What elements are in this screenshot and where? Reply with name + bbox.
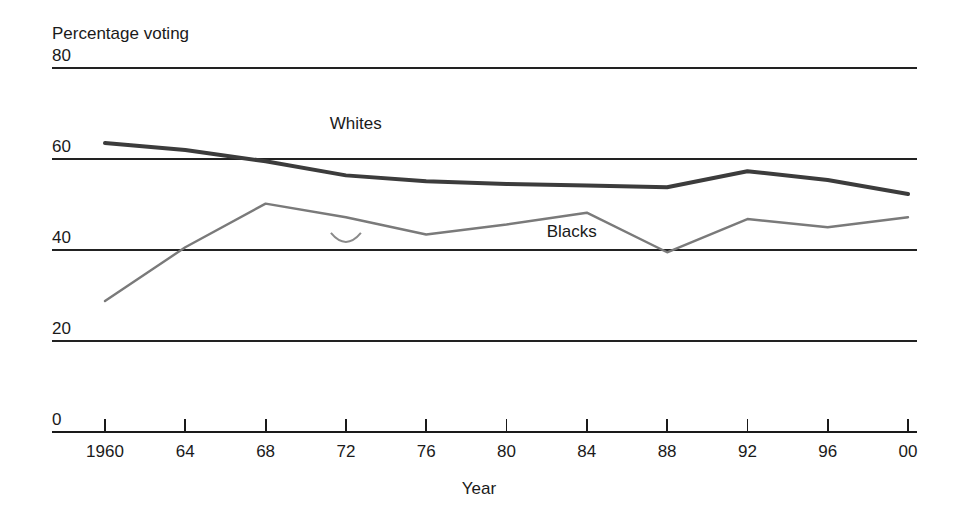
y-tick-label: 0 <box>52 410 61 429</box>
series-label-blacks: Blacks <box>547 222 597 241</box>
x-tick-label: 1960 <box>86 442 124 461</box>
x-tick-labels: 196064687276808488929600 <box>86 442 917 461</box>
scan-smudge-icon <box>331 233 361 242</box>
y-tick-label: 20 <box>52 319 71 338</box>
series-line-whites <box>105 143 908 194</box>
series-label-whites: Whites <box>330 114 382 133</box>
y-tick-labels: 020406080 <box>52 46 71 429</box>
x-tick-label: 64 <box>176 442 195 461</box>
x-tick-label: 76 <box>417 442 436 461</box>
x-tick-label: 84 <box>577 442 596 461</box>
line-chart: Percentage voting 020406080 WhitesBlacks… <box>0 0 958 508</box>
x-tick-label: 72 <box>336 442 355 461</box>
y-axis-title: Percentage voting <box>52 24 189 43</box>
x-axis <box>52 419 917 432</box>
chart-figure: Percentage voting 020406080 WhitesBlacks… <box>0 0 958 508</box>
series-line-blacks <box>105 204 908 301</box>
x-axis-title: Year <box>462 479 497 498</box>
x-tick-label: 68 <box>256 442 275 461</box>
scan-smudge-mark <box>331 233 361 242</box>
x-tick-label: 00 <box>899 442 918 461</box>
x-tick-label: 88 <box>658 442 677 461</box>
x-tick-label: 96 <box>818 442 837 461</box>
y-tick-label: 60 <box>52 137 71 156</box>
x-tick-label: 92 <box>738 442 757 461</box>
y-tick-label: 40 <box>52 228 71 247</box>
gridlines-group <box>52 68 917 341</box>
series-lines <box>105 143 908 301</box>
y-tick-label: 80 <box>52 46 71 65</box>
x-tick-label: 80 <box>497 442 516 461</box>
